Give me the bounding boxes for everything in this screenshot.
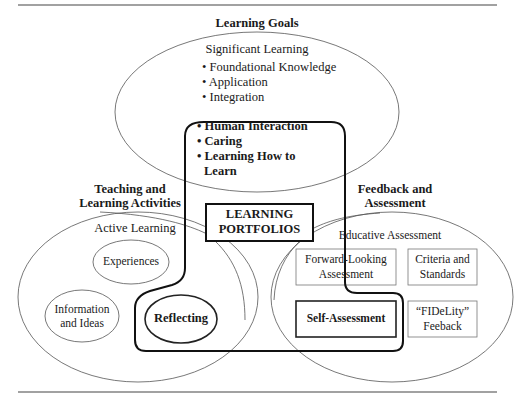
significant-learning-label: Significant Learning <box>192 42 322 56</box>
goal-bold-item: • Learning How to <box>197 149 295 163</box>
feedback-heading-2: Assessment <box>340 196 450 210</box>
forward-looking-2: Assessment <box>296 268 396 281</box>
fidelity-1: “FIDeLity” <box>408 305 477 318</box>
learning-goals-heading: Learning Goals <box>207 16 307 30</box>
teaching-heading-1: Teaching and <box>70 182 190 196</box>
portfolios-line1: LEARNING <box>206 207 313 221</box>
goal-bold-item: • Caring <box>197 134 242 148</box>
active-learning-label: Active Learning <box>85 221 185 235</box>
goal-item: • Foundational Knowledge <box>202 60 336 74</box>
self-assessment-label: Self-Assessment <box>296 312 396 325</box>
experiences-label: Experiences <box>93 255 169 268</box>
goal-item: • Integration <box>202 90 264 104</box>
portfolios-line2: PORTFOLIOS <box>206 222 313 236</box>
reflecting-label: Reflecting <box>145 311 217 325</box>
criteria-2: Standards <box>408 268 477 281</box>
feedback-heading-1: Feedback and <box>340 182 450 196</box>
criteria-1: Criteria and <box>408 253 477 266</box>
goal-item: • Application <box>202 75 268 89</box>
goal-bold-item: • Human Interaction <box>197 119 308 133</box>
forward-looking-1: Forward-Looking <box>296 253 396 266</box>
fidelity-2: Feeback <box>408 320 477 333</box>
educative-assessment-label: Educative Assessment <box>330 229 450 242</box>
information-label-2: and Ideas <box>45 317 119 330</box>
information-label-1: Information <box>45 303 119 316</box>
teaching-heading-2: Learning Activities <box>70 196 190 210</box>
goal-bold-item: Learn <box>204 164 237 178</box>
